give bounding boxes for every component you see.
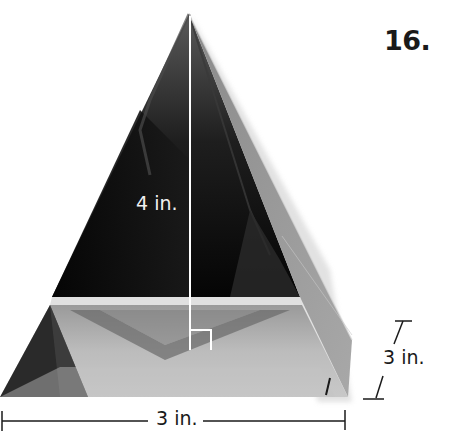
base-edge-highlight (50, 297, 302, 305)
height-label: 4 in. (136, 192, 178, 214)
depth-dimension-line-top (394, 321, 403, 344)
width-label: 3 in. (152, 407, 202, 429)
pyramid-figure: 16. 4 in. 3 in. 3 in. (0, 0, 449, 437)
problem-number: 16. (384, 25, 430, 56)
depth-dimension-line-bottom (376, 376, 383, 398)
pyramid-photo (0, 0, 449, 437)
depth-label: 3 in. (383, 346, 425, 368)
